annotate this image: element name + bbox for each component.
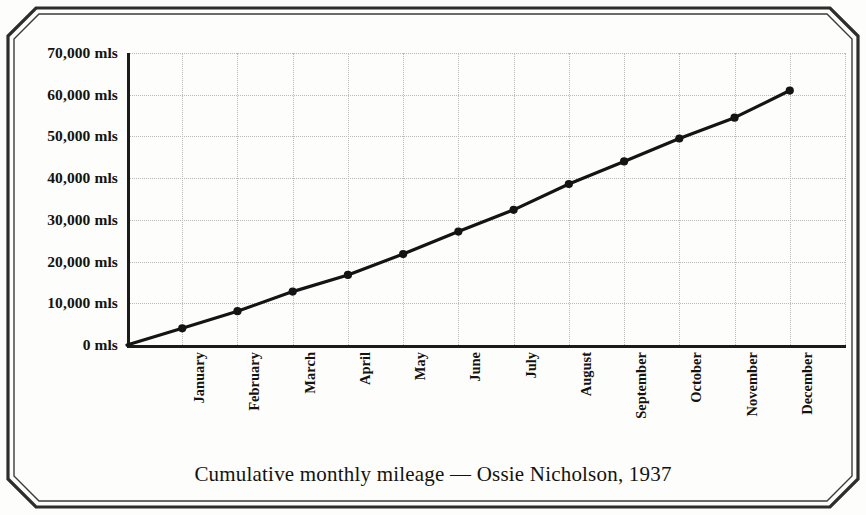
gridline-vertical bbox=[845, 53, 846, 345]
x-axis-tick-label-text: July bbox=[522, 352, 539, 379]
x-axis-tick-label-text: June bbox=[467, 352, 484, 382]
figure-caption: Cumulative monthly mileage — Ossie Nicho… bbox=[0, 462, 866, 487]
x-axis-tick-label-text: September bbox=[633, 352, 650, 419]
data-point-marker bbox=[289, 288, 297, 296]
y-axis-tick-label: 10,000 mls bbox=[0, 294, 118, 312]
x-axis-tick-label: November bbox=[735, 352, 752, 416]
data-point-marker bbox=[454, 227, 462, 235]
x-axis-tick-label-text: August bbox=[577, 352, 594, 396]
x-axis-tick-label: March bbox=[293, 352, 310, 394]
x-axis-tick-label: December bbox=[790, 352, 807, 415]
y-axis-tick-label: 40,000 mls bbox=[0, 169, 118, 187]
data-point-marker bbox=[233, 307, 241, 315]
y-axis-tick-label: 50,000 mls bbox=[0, 127, 118, 145]
x-axis-tick-label-text: February bbox=[246, 352, 263, 411]
figure-page: 0 mls10,000 mls20,000 mls30,000 mls40,00… bbox=[0, 0, 866, 515]
x-axis-tick-label-text: April bbox=[356, 352, 373, 385]
y-axis-labels: 0 mls10,000 mls20,000 mls30,000 mls40,00… bbox=[0, 0, 118, 345]
y-axis-tick-label: 0 mls bbox=[0, 336, 118, 354]
x-axis-tick-label: February bbox=[237, 352, 254, 411]
x-axis-tick-label-text: November bbox=[743, 352, 760, 416]
x-axis-tick-label: July bbox=[514, 352, 531, 379]
x-axis-tick-label-text: May bbox=[412, 352, 429, 380]
x-axis-tick-label: June bbox=[458, 352, 475, 382]
y-axis-tick-label: 60,000 mls bbox=[0, 86, 118, 104]
data-point-marker bbox=[620, 157, 628, 165]
data-point-marker bbox=[344, 271, 352, 279]
x-axis-tick-label: May bbox=[403, 352, 420, 380]
x-axis-tick-label-text: January bbox=[191, 352, 208, 404]
x-axis-tick-label: January bbox=[182, 352, 199, 404]
series-path bbox=[127, 91, 790, 345]
x-axis-tick-label: October bbox=[679, 352, 696, 403]
data-point-marker bbox=[178, 324, 186, 332]
data-point-marker bbox=[510, 206, 518, 214]
x-axis-labels: JanuaryFebruaryMarchAprilMayJuneJulyAugu… bbox=[127, 352, 845, 462]
x-axis-tick-label: August bbox=[569, 352, 586, 396]
y-axis-tick-label: 70,000 mls bbox=[0, 44, 118, 62]
x-axis-tick-label: September bbox=[624, 352, 641, 419]
data-point-marker bbox=[786, 86, 794, 94]
x-axis-tick-label-text: October bbox=[688, 352, 705, 403]
data-point-marker bbox=[730, 114, 738, 122]
x-axis-line bbox=[127, 345, 846, 348]
data-point-marker bbox=[565, 180, 573, 188]
x-axis-tick-label-text: March bbox=[301, 352, 318, 394]
x-axis-tick-label-text: December bbox=[798, 352, 815, 415]
x-axis-tick-label: April bbox=[348, 352, 365, 385]
data-point-marker bbox=[675, 134, 683, 142]
y-axis-tick-label: 20,000 mls bbox=[0, 253, 118, 271]
series-line-cumulative-mileage bbox=[127, 53, 845, 345]
y-axis-tick-label: 30,000 mls bbox=[0, 211, 118, 229]
plot-area bbox=[127, 53, 845, 345]
data-point-marker bbox=[399, 250, 407, 258]
